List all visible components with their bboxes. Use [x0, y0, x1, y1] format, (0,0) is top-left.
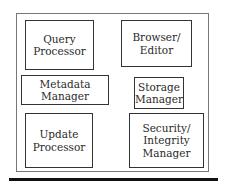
query-processor-box: Query Processor — [25, 20, 94, 70]
update-processor-label: Update Processor — [33, 128, 86, 153]
storage-manager-box: Storage Manager — [134, 77, 184, 109]
bottom-rule — [9, 178, 218, 181]
metadata-manager-box: Metadata Manager — [21, 75, 109, 105]
security-integrity-manager-box: Security/ Integrity Manager — [129, 113, 204, 168]
storage-manager-label: Storage Manager — [135, 81, 183, 106]
browser-editor-box: Browser/ Editor — [121, 20, 192, 67]
metadata-manager-label: Metadata Manager — [22, 78, 108, 103]
security-integrity-manager-label: Security/ Integrity Manager — [142, 122, 190, 160]
browser-editor-label: Browser/ Editor — [132, 31, 180, 56]
update-processor-box: Update Processor — [25, 113, 93, 168]
query-processor-label: Query Processor — [33, 33, 86, 58]
